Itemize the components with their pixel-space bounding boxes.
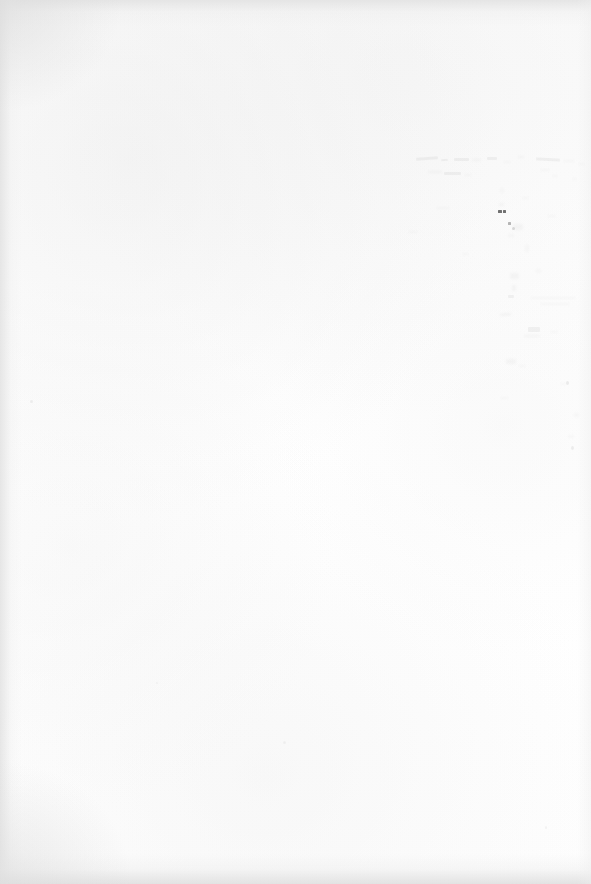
stray-speck — [566, 381, 569, 385]
ghost-mark — [499, 203, 504, 206]
ghost-mark — [530, 297, 576, 299]
ghost-mark — [500, 313, 511, 317]
ghost-mark — [510, 273, 519, 279]
ghost-mark — [508, 295, 514, 298]
scan-edge-shadow-bottom — [0, 854, 591, 884]
ghost-mark — [512, 285, 516, 291]
scanned-page: Blank scanned paper page with faint show… — [0, 0, 591, 884]
ghost-mark — [513, 224, 523, 230]
scan-corner-shadow-top-left — [0, 0, 120, 110]
ghost-mark — [568, 435, 574, 438]
ghost-mark — [506, 359, 516, 364]
ghost-mark — [528, 327, 540, 332]
ghost-mark — [563, 160, 575, 162]
ghost-mark — [428, 171, 442, 173]
ghost-mark — [536, 269, 541, 273]
ghost-mark — [518, 365, 526, 367]
ghost-mark — [436, 207, 450, 209]
ghost-mark — [444, 172, 461, 175]
ghost-mark — [416, 156, 438, 160]
stray-speck — [30, 400, 33, 403]
ghost-showthrough-cluster — [400, 145, 591, 465]
ghost-mark — [540, 303, 570, 305]
scan-edge-shadow-right — [577, 0, 591, 884]
scan-edge-shadow-left — [0, 0, 22, 884]
ghost-mark — [472, 159, 481, 161]
ghost-mark — [500, 188, 504, 193]
stray-speck — [156, 682, 158, 684]
ghost-mark — [508, 234, 514, 237]
stray-speck — [283, 741, 286, 744]
ghost-mark — [552, 175, 558, 177]
ghost-mark — [462, 253, 469, 255]
ghost-mark — [464, 174, 472, 176]
ghost-mark — [574, 413, 579, 417]
ghost-mark — [560, 383, 566, 385]
ghost-mark — [547, 215, 556, 217]
ghost-mark — [550, 331, 558, 333]
scan-edge-shadow-top — [0, 0, 591, 26]
stray-speck — [571, 446, 574, 450]
ghost-mark — [536, 157, 560, 161]
ghost-mark — [578, 163, 585, 165]
ghost-mark — [454, 158, 469, 161]
ghost-mark — [500, 397, 509, 399]
ink-speck — [498, 210, 502, 213]
ghost-mark — [487, 157, 497, 160]
scan-corner-shadow-bottom-left — [0, 764, 130, 884]
ghost-mark — [408, 231, 418, 233]
ghost-mark — [503, 161, 511, 163]
stray-speck — [545, 826, 547, 829]
scan-grain-overlay — [0, 0, 591, 884]
ghost-mark — [441, 159, 448, 161]
ghost-mark — [518, 156, 524, 158]
ghost-mark — [525, 245, 529, 252]
ink-speck — [503, 210, 506, 213]
ink-speck — [512, 227, 515, 230]
ghost-mark — [540, 169, 550, 171]
ghost-mark — [572, 178, 577, 180]
ink-speck — [508, 222, 511, 225]
ghost-mark — [524, 335, 540, 337]
ghost-mark — [522, 197, 529, 199]
